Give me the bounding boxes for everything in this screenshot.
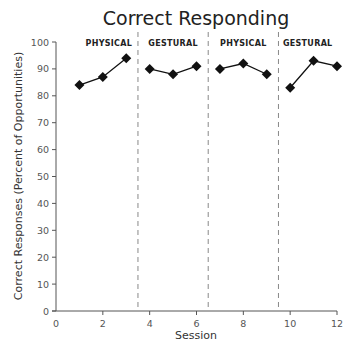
diamond-marker bbox=[262, 69, 272, 79]
phase-labels: PHYSICALGESTURALPHYSICALGESTURAL bbox=[86, 39, 333, 48]
y-axis: 0102030405060708090100 bbox=[31, 37, 56, 317]
y-tick-label: 20 bbox=[37, 252, 49, 263]
diamond-marker bbox=[145, 64, 155, 74]
y-tick-label: 10 bbox=[37, 279, 49, 290]
x-tick-label: 8 bbox=[240, 318, 246, 329]
phase-change-lines bbox=[138, 32, 279, 311]
diamond-marker bbox=[168, 69, 178, 79]
x-tick-label: 12 bbox=[331, 318, 343, 329]
phase-label: GESTURAL bbox=[148, 39, 198, 48]
diamond-marker bbox=[332, 61, 342, 71]
y-tick-label: 80 bbox=[37, 90, 49, 101]
phase-label: GESTURAL bbox=[283, 39, 333, 48]
diamond-marker bbox=[192, 61, 202, 71]
x-tick-label: 4 bbox=[147, 318, 153, 329]
y-tick-label: 50 bbox=[37, 171, 49, 182]
x-axis: 024681012 bbox=[52, 311, 343, 329]
x-tick-label: 0 bbox=[53, 318, 59, 329]
y-tick-label: 40 bbox=[37, 198, 49, 209]
diamond-marker bbox=[238, 59, 248, 69]
x-axis-label: Session bbox=[175, 329, 217, 342]
y-tick-label: 70 bbox=[37, 117, 49, 128]
y-tick-label: 0 bbox=[43, 306, 49, 317]
phase-label: PHYSICAL bbox=[86, 39, 133, 48]
y-tick-label: 90 bbox=[37, 63, 49, 74]
chart: Correct Responding 010203040506070809010… bbox=[0, 0, 350, 351]
y-tick-label: 100 bbox=[31, 37, 49, 48]
y-tick-label: 60 bbox=[37, 144, 49, 155]
y-tick-label: 30 bbox=[37, 225, 49, 236]
x-tick-label: 6 bbox=[193, 318, 199, 329]
x-tick-label: 10 bbox=[284, 318, 296, 329]
x-tick-label: 2 bbox=[100, 318, 106, 329]
phase-label: PHYSICAL bbox=[220, 39, 267, 48]
y-axis-label: Correct Responses (Percent of Opportunit… bbox=[12, 52, 25, 300]
diamond-marker bbox=[74, 80, 84, 90]
diamond-marker bbox=[215, 64, 225, 74]
chart-title: Correct Responding bbox=[103, 7, 290, 29]
line-chart-svg: Correct Responding 010203040506070809010… bbox=[0, 0, 350, 351]
